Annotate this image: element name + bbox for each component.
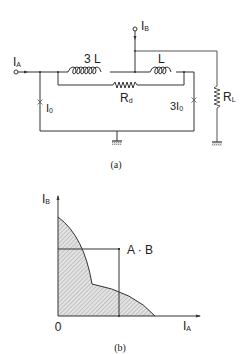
branch-3i0: [192, 72, 197, 131]
label-i0: I0: [46, 102, 53, 114]
label-3l: 3 L: [84, 52, 101, 66]
point-ab: [118, 248, 120, 250]
branch-i0: [38, 72, 43, 131]
label-ib: IB: [141, 19, 149, 33]
label-ia: IA: [13, 55, 21, 69]
circuit-diagram: IA 3 L L Rd I0: [13, 19, 236, 171]
ground-icon: [112, 131, 122, 145]
arrow-icon: [57, 195, 60, 200]
label-origin: 0: [55, 320, 62, 334]
ground-icon: [212, 142, 222, 146]
caption-b: (b): [114, 342, 126, 354]
resistor-rl: [135, 51, 220, 142]
resistor-rd: [58, 72, 184, 88]
terminal-ia: [14, 70, 59, 74]
inductor-3l: [58, 67, 150, 74]
arrow-icon: [196, 315, 201, 318]
inductor-l: [150, 67, 194, 74]
label-y-axis: IB: [42, 192, 50, 206]
label-l: L: [158, 52, 165, 66]
operating-region-chart: IB A · B 0 IA (b): [42, 192, 201, 354]
figure-canvas: IA 3 L L Rd I0: [0, 0, 247, 354]
label-rl: RL: [223, 90, 236, 104]
label-x-axis: IA: [183, 319, 191, 333]
terminal-ib: [133, 27, 137, 72]
label-3i0: 3I0: [170, 100, 183, 112]
caption-a: (a): [110, 159, 121, 171]
label-point-ab: A · B: [127, 243, 153, 257]
label-rd: Rd: [120, 91, 133, 105]
arrow-icon: [134, 36, 137, 40]
arrow-icon: [24, 71, 28, 74]
